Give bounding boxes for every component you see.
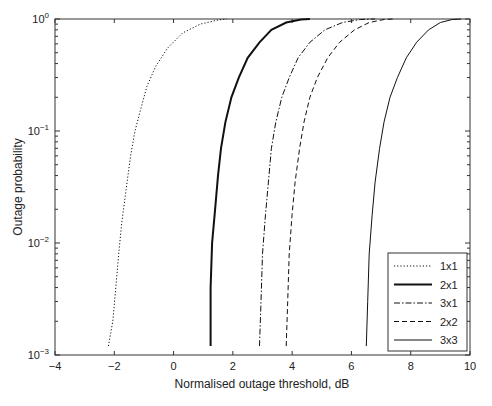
y-axis-label: Outage probability xyxy=(11,138,25,235)
y-tick-label: 10−3 xyxy=(28,347,50,361)
y-tick-label: 100 xyxy=(32,11,49,25)
legend-label: 3x3 xyxy=(440,334,458,346)
legend-label: 1x1 xyxy=(440,260,458,272)
legend: 1x12x13x12x23x3 xyxy=(388,253,467,351)
y-tick-label: 10−1 xyxy=(28,123,50,137)
legend-label: 3x1 xyxy=(440,297,458,309)
x-tick-label: −2 xyxy=(108,360,121,372)
x-tick-label: 0 xyxy=(171,360,177,372)
x-tick-label: 6 xyxy=(348,360,354,372)
x-axis-label: Normalised outage threshold, dB xyxy=(175,377,350,391)
y-tick-label: 10−2 xyxy=(28,235,50,249)
legend-label: 2x1 xyxy=(440,279,458,291)
x-tick-label: −4 xyxy=(49,360,62,372)
x-tick-label: 10 xyxy=(464,360,476,372)
outage-probability-chart: 10010−110−210−3 −4−20246810 Normalised o… xyxy=(0,0,492,406)
x-tick-label: 8 xyxy=(408,360,414,372)
x-tick-label: 2 xyxy=(230,360,236,372)
legend-label: 2x2 xyxy=(440,316,458,328)
x-tick-label: 4 xyxy=(289,360,295,372)
